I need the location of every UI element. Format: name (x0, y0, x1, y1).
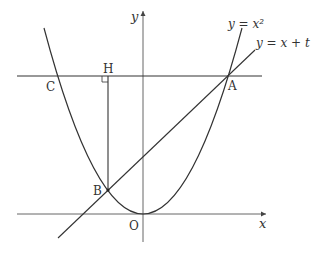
parabola-label: y = x² (227, 17, 264, 31)
origin-label: O (129, 219, 139, 233)
coordinate-diagram: y x O y = x² y = x + t A B C H (0, 0, 325, 256)
point-A-label: A (227, 79, 237, 93)
point-C-label: C (46, 80, 55, 94)
point-B-dot (106, 188, 109, 191)
point-H-label: H (103, 62, 113, 76)
line-y-x-t (58, 50, 255, 238)
point-B-label: B (93, 184, 102, 198)
diagram-canvas: y x O y = x² y = x + t A B C H (0, 0, 325, 256)
x-axis-label: x (259, 216, 267, 231)
line-label: y = x + t (255, 36, 310, 50)
right-angle-mark (102, 76, 108, 82)
y-axis-label: y (130, 9, 139, 24)
